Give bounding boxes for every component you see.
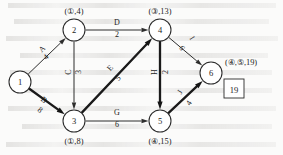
arrowhead-G (142, 119, 149, 123)
arrowhead-H (157, 102, 162, 110)
node-dp-label-5: (④,15) (148, 137, 171, 146)
graph-canvas: 123456 A4B8C3D2E5G6H2I6J4 (①,4)(①,8)(③,1… (0, 0, 283, 155)
edge-name-D: D (114, 18, 120, 27)
arrowhead-C (72, 103, 76, 110)
node-1[interactable]: 1 (9, 71, 31, 93)
edge-weight-C: 3 (74, 70, 83, 74)
edge-weight-H: 2 (161, 70, 170, 74)
edge-weight-G: 6 (115, 120, 119, 129)
edge-name-I: I (187, 34, 196, 41)
answer-box: 19 (224, 79, 244, 98)
node-dp-label-6: (④,⑤,19) (225, 58, 257, 67)
node-number-1: 1 (18, 77, 22, 87)
edge-J (168, 81, 202, 113)
edge-B (29, 89, 64, 115)
edge-line-J (168, 86, 196, 113)
node-dp-label-3: (①,8) (65, 137, 84, 146)
answer-box-value: 19 (230, 85, 239, 95)
node-number-3: 3 (72, 116, 76, 126)
node-number-2: 2 (72, 25, 76, 35)
node-dp-label-2: (①,4) (65, 7, 84, 16)
edge-weight-B: 8 (36, 105, 45, 115)
edge-name-C: C (64, 69, 73, 74)
network-diagram-figure: 123456 A4B8C3D2E5G6H2I6J4 (①,4)(①,8)(③,1… (0, 0, 283, 155)
edge-name-H: H (150, 69, 159, 75)
node-number-6: 6 (209, 68, 213, 78)
edge-name-A: A (37, 44, 48, 55)
node-4[interactable]: 4 (149, 19, 171, 41)
node-6[interactable]: 6 (200, 62, 222, 84)
node-2[interactable]: 2 (63, 19, 85, 41)
edge-I (169, 37, 202, 65)
node-3[interactable]: 3 (63, 110, 85, 132)
edge-weight-J: 4 (184, 99, 194, 107)
edge-name-G: G (114, 108, 120, 117)
edge-name-E: E (105, 63, 115, 73)
node-5[interactable]: 5 (149, 110, 171, 132)
edge-name-J: J (175, 88, 184, 95)
node-dp-label-4: (③,13) (148, 7, 171, 16)
arrowhead-D (142, 28, 149, 32)
edge-weight-D: 2 (115, 30, 119, 39)
node-number-5: 5 (158, 116, 162, 126)
